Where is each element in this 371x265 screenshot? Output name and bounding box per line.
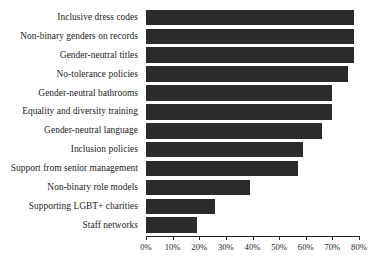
bar-row — [146, 102, 359, 121]
category-label: Gender-neutral titles — [0, 46, 142, 65]
category-label: Inclusion policies — [0, 140, 142, 159]
category-axis-labels: Inclusive dress codesNon-binary genders … — [0, 8, 142, 235]
bar-row — [146, 84, 359, 103]
x-tick-label: 60% — [298, 242, 314, 252]
bar-row — [146, 8, 359, 27]
bar — [146, 29, 354, 45]
x-tick-label: 30% — [218, 242, 234, 252]
bar — [146, 47, 354, 63]
bar-row — [146, 27, 359, 46]
x-tick-mark — [279, 236, 280, 240]
category-label: Supporting LGBT+ charities — [0, 197, 142, 216]
x-tick-mark — [332, 236, 333, 240]
plot-area — [146, 8, 359, 235]
bar — [146, 123, 322, 139]
category-label: Inclusive dress codes — [0, 8, 142, 27]
bar — [146, 199, 215, 215]
bar-row — [146, 46, 359, 65]
x-tick-label: 20% — [191, 242, 207, 252]
x-tick-mark — [173, 236, 174, 240]
x-tick-label: 50% — [271, 242, 287, 252]
category-label: No-tolerance policies — [0, 65, 142, 84]
bar-row — [146, 140, 359, 159]
x-tick-label: 0% — [140, 242, 151, 252]
bar — [146, 104, 332, 120]
category-label: Gender-neutral language — [0, 121, 142, 140]
bar-row — [146, 216, 359, 235]
x-tick-mark — [359, 236, 360, 240]
category-label: Equality and diversity training — [0, 102, 142, 121]
x-tick-mark — [146, 236, 147, 240]
category-label: Non-binary genders on records — [0, 27, 142, 46]
bar — [146, 161, 298, 177]
bar-row — [146, 121, 359, 140]
bar-chart: Inclusive dress codesNon-binary genders … — [0, 0, 371, 265]
x-tick-label: 10% — [165, 242, 181, 252]
bar — [146, 66, 348, 82]
x-tick-label: 70% — [324, 242, 340, 252]
category-label: Support from senior management — [0, 159, 142, 178]
bar — [146, 217, 197, 233]
bar-row — [146, 178, 359, 197]
x-tick-mark — [226, 236, 227, 240]
x-tick-mark — [253, 236, 254, 240]
bar-row — [146, 197, 359, 216]
category-label: Staff networks — [0, 216, 142, 235]
category-label: Non-binary role models — [0, 178, 142, 197]
x-tick-label: 40% — [245, 242, 261, 252]
bar-row — [146, 65, 359, 84]
x-tick-mark — [306, 236, 307, 240]
x-tick-mark — [199, 236, 200, 240]
bar-row — [146, 159, 359, 178]
bar — [146, 85, 332, 101]
x-tick-label: 80% — [351, 242, 367, 252]
bar — [146, 180, 250, 196]
category-label: Gender-neutral bathrooms — [0, 84, 142, 103]
bar — [146, 142, 303, 158]
bar — [146, 10, 354, 26]
